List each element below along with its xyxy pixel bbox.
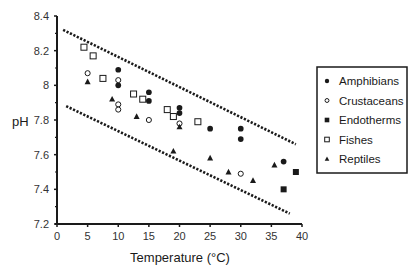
data-points: [81, 44, 299, 192]
filled-circle-icon: [115, 67, 121, 73]
legend-label: Reptiles: [339, 153, 381, 165]
y-axis-title: pH: [12, 114, 29, 129]
data-point: [109, 96, 115, 102]
data-point: [90, 53, 96, 59]
data-point: [116, 102, 121, 107]
filled-triangle-icon: [85, 79, 91, 85]
y-tick-label: 7.6: [34, 149, 49, 161]
x-tick-label: 30: [235, 230, 247, 242]
data-point: [170, 148, 176, 154]
filled-circle-icon: [238, 136, 244, 142]
y-tick-label: 7.4: [34, 183, 49, 195]
filled-circle-icon: [177, 110, 183, 116]
data-point: [226, 169, 232, 175]
filled-circle-icon: [325, 79, 329, 83]
series-fishes: [81, 44, 201, 125]
legend-marker: [325, 79, 329, 83]
filled-triangle-icon: [207, 155, 213, 161]
open-circle-icon: [238, 171, 243, 176]
x-tick-label: 35: [265, 230, 277, 242]
legend-label: Endotherms: [339, 114, 401, 126]
open-circle-icon: [116, 102, 121, 107]
y-tick-label: 8.2: [34, 45, 49, 57]
x-tick-label: 0: [54, 230, 60, 242]
data-point: [250, 177, 256, 183]
filled-triangle-icon: [250, 177, 256, 183]
data-point: [100, 75, 106, 81]
data-point: [177, 110, 183, 116]
filled-circle-icon: [238, 126, 244, 132]
filled-circle-icon: [115, 82, 121, 88]
x-tick-label: 10: [112, 230, 124, 242]
filled-triangle-icon: [109, 96, 115, 102]
filled-square-icon: [293, 169, 299, 175]
legend: AmphibiansCrustaceansEndothermsFishesRep…: [317, 67, 407, 173]
x-axis: 0510152025303540: [54, 224, 308, 242]
data-point: [281, 186, 287, 192]
open-circle-icon: [85, 71, 90, 76]
data-point: [238, 126, 244, 132]
data-point: [177, 105, 183, 111]
x-tick-label: 25: [204, 230, 216, 242]
x-tick-label: 5: [85, 230, 91, 242]
data-point: [281, 159, 287, 165]
data-point: [140, 96, 146, 102]
x-tick-label: 40: [296, 230, 308, 242]
open-circle-icon: [116, 78, 121, 83]
filled-square-icon: [281, 186, 287, 192]
data-point: [271, 162, 277, 168]
filled-triangle-icon: [134, 113, 140, 119]
open-square-icon: [131, 91, 137, 97]
legend-label: Fishes: [339, 134, 373, 146]
data-point: [146, 98, 152, 104]
legend-marker: [325, 137, 330, 142]
open-circle-icon: [116, 107, 121, 112]
data-point: [238, 171, 243, 176]
filled-circle-icon: [146, 98, 152, 104]
y-tick-label: 8.4: [34, 10, 49, 22]
series-crustaceans: [85, 71, 243, 177]
data-point: [81, 44, 87, 50]
open-square-icon: [90, 53, 96, 59]
data-point: [85, 79, 91, 85]
legend-label: Amphibians: [339, 75, 399, 87]
data-point: [85, 71, 90, 76]
x-tick-label: 20: [173, 230, 185, 242]
open-circle-icon: [146, 117, 151, 122]
data-point: [238, 136, 244, 142]
filled-triangle-icon: [271, 162, 277, 168]
data-point: [115, 67, 121, 73]
y-tick-label: 7.2: [34, 218, 49, 230]
data-point: [146, 117, 151, 122]
filled-triangle-icon: [226, 169, 232, 175]
open-square-icon: [195, 119, 201, 125]
filled-square-icon: [325, 118, 330, 123]
y-tick-label: 7.8: [34, 114, 49, 126]
series-endotherms: [281, 169, 299, 192]
data-point: [115, 82, 121, 88]
y-tick-label: 8: [43, 79, 49, 91]
open-circle-icon: [325, 99, 329, 103]
y-axis: 7.27.47.67.888.28.4: [34, 10, 57, 230]
data-point: [170, 114, 176, 120]
filled-circle-icon: [146, 89, 152, 95]
data-point: [293, 169, 299, 175]
legend-label: Crustaceans: [339, 95, 404, 107]
data-point: [116, 78, 121, 83]
filled-triangle-icon: [170, 148, 176, 154]
data-point: [195, 119, 201, 125]
series-amphibians: [115, 67, 286, 165]
data-point: [146, 89, 152, 95]
legend-marker: [325, 99, 329, 103]
open-square-icon: [325, 137, 330, 142]
scatter-chart: 7.27.47.67.888.28.4 0510152025303540 pH …: [0, 0, 418, 269]
open-square-icon: [100, 75, 106, 81]
filled-circle-icon: [281, 159, 287, 165]
data-point: [207, 155, 213, 161]
open-square-icon: [81, 44, 87, 50]
series-reptiles: [85, 79, 278, 184]
filled-circle-icon: [207, 126, 213, 132]
data-point: [134, 113, 140, 119]
filled-circle-icon: [177, 105, 183, 111]
data-point: [116, 107, 121, 112]
